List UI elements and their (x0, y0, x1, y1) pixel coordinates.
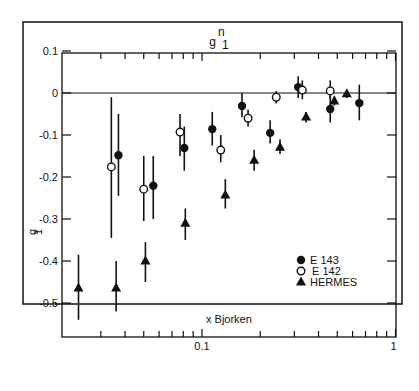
legend-item: HERMES (296, 276, 357, 288)
chart-title-sub: 1 (222, 38, 229, 52)
data-point (272, 93, 280, 101)
data-point (249, 155, 259, 164)
plot-area: 0.10-0.1-0.2-0.3-0.4-0.50.11 (39, 45, 397, 352)
x-tick-label: 0.1 (194, 340, 209, 352)
legend-label: HERMES (310, 276, 357, 288)
open-circle-icon (297, 267, 305, 275)
data-point (208, 125, 216, 133)
chart: 0.10-0.1-0.2-0.3-0.4-0.50.11 g n 1 x Bjo… (0, 0, 419, 391)
legend: E 143E 142HERMES (296, 254, 357, 288)
series-e-142 (108, 80, 335, 238)
data-point (176, 128, 184, 136)
x-tick-label: 1 (390, 340, 396, 352)
data-point (301, 111, 311, 120)
y-tick-label: 0.1 (43, 45, 58, 57)
data-point (111, 282, 121, 291)
data-point (326, 105, 334, 113)
data-point (326, 87, 334, 95)
data-point (266, 129, 274, 137)
data-point (355, 99, 363, 107)
y-axis-title-sub: 1 (32, 229, 44, 235)
data-point (108, 163, 116, 171)
x-axis-label: x Bjorken (206, 313, 252, 325)
y-axis-label: g 1 (26, 229, 44, 235)
chart-title-main: g (209, 35, 216, 49)
data-point (299, 86, 307, 94)
x-axis-title: x Bjorken (206, 313, 252, 325)
chart-title-sup: n (218, 25, 225, 39)
series-e-143 (114, 76, 363, 219)
y-tick-label: -0.5 (39, 297, 58, 309)
data-point (149, 182, 157, 190)
data-point (114, 151, 122, 159)
data-point (244, 114, 252, 122)
data-point (217, 146, 225, 154)
data-point (140, 185, 148, 193)
data-point (140, 256, 150, 265)
y-tick-label: -0.4 (39, 255, 58, 267)
data-point (220, 190, 230, 199)
y-tick-label: -0.3 (39, 213, 58, 225)
data-point (180, 218, 190, 227)
data-point (180, 144, 188, 152)
filled-circle-icon (297, 256, 305, 264)
data-point (275, 142, 285, 151)
outer-frame (23, 22, 402, 304)
data-point (73, 282, 83, 291)
filled-triangle-icon (296, 277, 306, 286)
data-point (238, 102, 246, 110)
y-tick-label: -0.2 (39, 171, 58, 183)
title: g n 1 (209, 25, 229, 52)
y-tick-label: -0.1 (39, 129, 58, 141)
y-tick-label: 0 (52, 87, 58, 99)
